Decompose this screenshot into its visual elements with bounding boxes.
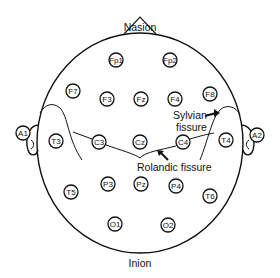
electrode-t3: T3 — [49, 134, 63, 148]
electrode-label: P3 — [103, 180, 113, 189]
electrode-label: A2 — [252, 131, 262, 140]
sylvian-label-line1: Sylvian — [173, 109, 207, 121]
electrode-fp2: Fp2 — [163, 53, 177, 67]
electrode-a2: A2 — [250, 128, 264, 142]
electrode-f8: F8 — [203, 87, 217, 101]
electrode-label: Cz — [135, 138, 145, 147]
left-ear-inner — [31, 140, 34, 149]
left-sylvian-fissure-line — [40, 105, 82, 160]
electrode-f7: F7 — [66, 84, 80, 98]
electrode-label: P4 — [171, 182, 181, 191]
electrode-a1: A1 — [16, 126, 30, 140]
inion-label: Inion — [129, 257, 152, 269]
electrode-c4: C4 — [176, 135, 190, 149]
electrode-f4: F4 — [168, 92, 182, 106]
electrode-label: O1 — [110, 220, 121, 229]
electrode-p4: P4 — [169, 179, 183, 193]
electrode-f3: F3 — [100, 92, 114, 106]
eeg-diagram: Nasion Inion Sylvian fissure Rolandic fi… — [0, 0, 280, 278]
sylvian-arrow-head — [214, 109, 220, 117]
electrode-t5: T5 — [64, 185, 78, 199]
electrode-label: T4 — [221, 136, 231, 145]
electrode-label: F4 — [170, 95, 180, 104]
electrode-label: A1 — [18, 129, 28, 138]
electrode-label: Fz — [137, 95, 146, 104]
electrode-fz: Fz — [134, 92, 148, 106]
electrode-label: Pz — [136, 180, 145, 189]
electrode-fp1: Fp1 — [109, 53, 123, 67]
electrode-label: F3 — [102, 95, 112, 104]
nasion-label: Nasion — [124, 21, 157, 33]
electrode-label: C3 — [94, 138, 105, 147]
electrode-t4: T4 — [219, 133, 233, 147]
electrode-label: F8 — [205, 90, 215, 99]
electrode-cz: Cz — [133, 135, 147, 149]
electrode-label: Fp2 — [163, 56, 177, 65]
electrode-label: Fp1 — [109, 56, 123, 65]
electrode-o1: O1 — [108, 217, 122, 231]
electrode-group: Fp1Fp2F7F3FzF4F8A1T3C3CzC4T4A2T5P3PzP4T6… — [16, 53, 264, 232]
electrode-label: C4 — [178, 138, 189, 147]
electrode-label: T3 — [51, 137, 61, 146]
right-ear-inner — [246, 140, 249, 149]
electrode-p3: P3 — [101, 177, 115, 191]
sylvian-label-line2: fissure — [176, 121, 207, 133]
electrode-label: T5 — [66, 188, 76, 197]
electrode-o2: O2 — [161, 218, 175, 232]
electrode-pz: Pz — [134, 177, 148, 191]
electrode-label: O2 — [163, 221, 174, 230]
rolandic-arrow — [161, 153, 168, 160]
electrode-label: F7 — [68, 87, 78, 96]
rolandic-label: Rolandic fissure — [137, 161, 212, 173]
electrode-label: T6 — [205, 192, 215, 201]
electrode-c3: C3 — [92, 135, 106, 149]
electrode-t6: T6 — [203, 189, 217, 203]
